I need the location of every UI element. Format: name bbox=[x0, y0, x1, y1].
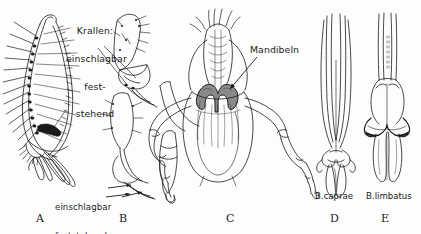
annotation-krallen-line4: stehend bbox=[66, 109, 124, 118]
panel-c-mandibles bbox=[196, 84, 238, 112]
panel-a-ventral-lobe-edge bbox=[29, 159, 33, 170]
panel-d-labellum-left bbox=[322, 150, 335, 167]
panel-e-illustration bbox=[364, 13, 409, 182]
panel-letter-b: B bbox=[119, 212, 127, 225]
panel-b-terminal-left bbox=[120, 148, 142, 181]
annotation-krallen: Krallen: einschlagbar fest- stehend bbox=[66, 8, 124, 137]
panel-e-stylet-2 bbox=[383, 13, 384, 80]
panel-a-leader-line bbox=[52, 110, 66, 130]
panel-e-head-notch-left bbox=[376, 84, 386, 88]
figure-plate: Krallen: einschlagbar fest- stehend eins… bbox=[0, 0, 421, 234]
annotation-krallen-line3: fest- bbox=[66, 82, 124, 91]
panel-d-hook-left bbox=[317, 160, 322, 172]
panel-a-inner-edge bbox=[29, 20, 57, 157]
panel-e-head-left bbox=[371, 80, 379, 124]
annotation-krallen-line1: Krallen: bbox=[66, 26, 124, 35]
panel-e-head-right bbox=[396, 80, 404, 124]
panel-b-right-seg-joint1 bbox=[161, 146, 177, 148]
panel-d-stylet-2 bbox=[331, 14, 336, 140]
arrow-einschlagbar bbox=[108, 185, 131, 188]
panel-c-left-legs bbox=[149, 98, 191, 203]
panel-a-outer-edge bbox=[22, 24, 52, 160]
panel-b-terminal-right bbox=[124, 150, 148, 183]
panel-a-top-hook-inner bbox=[46, 17, 53, 20]
panel-c-column-detail bbox=[209, 30, 227, 86]
panel-b-tarsus-top bbox=[120, 65, 147, 75]
panel-c-illustration bbox=[149, 9, 319, 203]
panel-e-blade-texture bbox=[378, 136, 396, 180]
panel-c-column-top bbox=[207, 24, 229, 30]
panel-b-lower-claws bbox=[124, 182, 155, 199]
panel-a-ventral-lobe bbox=[33, 158, 44, 180]
panel-letter-a: A bbox=[36, 212, 44, 225]
panel-e-stylet-3 bbox=[391, 13, 392, 80]
panel-d-labellum-right bbox=[337, 150, 350, 167]
panel-e-dark-lobe-inner-right bbox=[387, 126, 406, 130]
panel-e-stylet-4 bbox=[396, 14, 397, 80]
annotation-krallen-line2: einschlagbar bbox=[66, 54, 124, 63]
panel-a-left-bristles bbox=[3, 22, 37, 146]
panel-b-lower-right bbox=[124, 94, 133, 150]
panel-d-stylet-1 bbox=[326, 16, 333, 142]
panel-a-dark-claw bbox=[37, 124, 61, 136]
panel-letter-e: E bbox=[381, 212, 389, 225]
panel-letter-d: D bbox=[330, 212, 339, 225]
annotation-lower-left: einschlagbar feststehend bbox=[55, 184, 111, 234]
annotation-lower-left-line1: einschlagbar bbox=[55, 203, 111, 213]
panel-d-stylet-4 bbox=[339, 16, 346, 142]
mandibeln-arrow bbox=[230, 57, 257, 89]
panel-b-right-seg-top bbox=[163, 131, 175, 135]
panel-d-stylet-3 bbox=[336, 14, 341, 140]
panel-e-head-top bbox=[379, 79, 396, 81]
panel-e-stylet-dashes bbox=[387, 36, 389, 70]
panel-c-column-right bbox=[226, 30, 232, 86]
species-label-limbatus: B.limbatus bbox=[366, 191, 412, 201]
panel-d-hook-right bbox=[350, 160, 355, 172]
panel-c-bottom-ticks bbox=[200, 176, 236, 186]
panel-a-pad-fringe bbox=[19, 146, 38, 165]
panel-d-labellum-mid bbox=[328, 160, 344, 162]
panel-a-top-hook bbox=[40, 15, 56, 24]
panel-b-right-seg-right bbox=[168, 133, 177, 193]
panel-b-tarsus-fold bbox=[124, 76, 140, 83]
panel-e-head-notch-right bbox=[389, 84, 399, 88]
panel-c-antennae bbox=[190, 9, 240, 32]
species-label-caprae: B.caprae bbox=[315, 191, 353, 201]
panel-d-illustration bbox=[317, 14, 356, 197]
panel-c-column-left bbox=[204, 30, 210, 86]
panel-letter-c: C bbox=[226, 212, 234, 225]
annotation-mandibeln: Mandibeln bbox=[250, 44, 299, 55]
panel-e-stylet-1 bbox=[378, 14, 379, 80]
panel-b-upper-right-frag-top bbox=[160, 82, 170, 86]
panel-c-right-legs bbox=[245, 98, 319, 199]
panel-e-dark-lobe-inner-left bbox=[368, 126, 387, 130]
annotation-lower-left-line2: feststehend bbox=[55, 232, 111, 234]
panel-b-claws bbox=[128, 88, 157, 107]
